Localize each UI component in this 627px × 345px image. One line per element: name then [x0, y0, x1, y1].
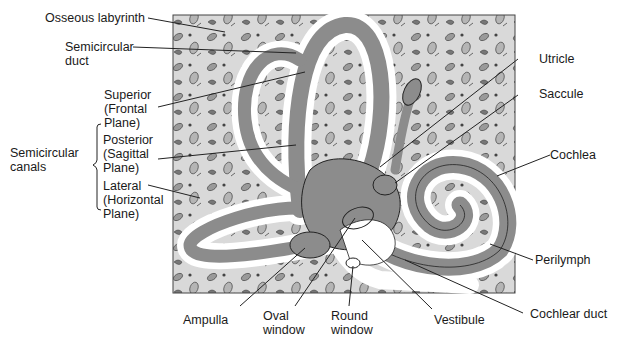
label-line: Posterior	[103, 133, 153, 147]
label-cochlea: Cochlea	[550, 148, 596, 162]
label-line: Plane)	[104, 116, 151, 130]
label-posterior: Posterior (Sagittal Plane)	[103, 133, 153, 175]
label-line: Oval	[263, 309, 305, 323]
ampulla-shape	[290, 232, 330, 258]
label-superior: Superior (Frontal Plane)	[104, 88, 151, 130]
label-line: Plane)	[103, 207, 163, 221]
label-line: window	[331, 323, 373, 337]
label-line: Lateral	[103, 179, 163, 193]
label-line: canals	[10, 160, 79, 174]
label-line: Semicircular	[10, 146, 79, 160]
label-semicircular-duct: Semicircular duct	[65, 40, 134, 68]
label-osseous-labyrinth: Osseous labyrinth	[45, 11, 145, 25]
label-line: Semicircular	[65, 40, 134, 54]
label-line: duct	[65, 54, 134, 68]
label-utricle: Utricle	[539, 52, 574, 66]
label-line: Round	[331, 309, 373, 323]
label-vestibule: Vestibule	[434, 313, 485, 327]
label-round-window: Round window	[331, 309, 373, 337]
label-perilymph: Perilymph	[535, 253, 591, 267]
label-line: Superior	[104, 88, 151, 102]
label-line: window	[263, 323, 305, 337]
label-line: Plane)	[103, 161, 153, 175]
label-lateral: Lateral (Horizontal Plane)	[103, 179, 163, 221]
label-ampulla: Ampulla	[183, 313, 228, 327]
label-oval-window: Oval window	[263, 309, 305, 337]
label-saccule: Saccule	[539, 87, 583, 101]
label-line: (Frontal	[104, 102, 151, 116]
inner-ear-diagram: Osseous labyrinth Semicircular duct Semi…	[0, 0, 627, 345]
label-cochlear-duct: Cochlear duct	[530, 307, 607, 321]
label-semicircular-canals: Semicircular canals	[10, 146, 79, 174]
label-line: (Horizontal	[103, 193, 163, 207]
label-line: (Sagittal	[103, 147, 153, 161]
saccule-shape	[373, 175, 397, 195]
